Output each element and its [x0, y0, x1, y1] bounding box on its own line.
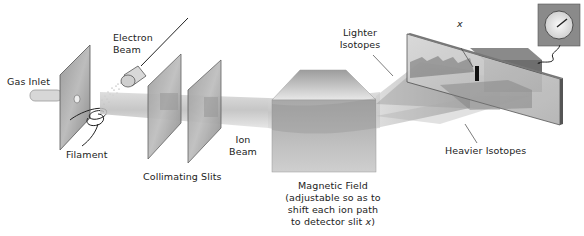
- ionization-plate: [60, 45, 90, 150]
- magnetic-field-line4-suffix: ): [371, 216, 375, 227]
- collimating-slit-1: [148, 54, 181, 159]
- label-ion-beam-line1: Ion: [229, 134, 257, 146]
- label-filament: Filament: [66, 149, 108, 161]
- detector-slit: [475, 66, 479, 81]
- label-electron-beam-line1: Electron: [113, 32, 153, 44]
- label-collimating-slits: Collimating Slits: [143, 171, 222, 183]
- label-magnetic-field-line2: (adjustable so as to: [268, 192, 398, 204]
- magnet: [272, 70, 376, 172]
- label-lighter-isotopes-line1: Lighter: [335, 27, 385, 39]
- label-detector-slit-x: x: [457, 18, 463, 30]
- label-magnetic-field-line1: Magnetic Field: [268, 180, 398, 192]
- label-magnetic-field-line3: shift each ion path: [268, 204, 398, 216]
- meter-gauge: [538, 4, 580, 63]
- label-lighter-isotopes-line2: Isotopes: [335, 39, 385, 51]
- collimating-slit-2: [188, 60, 221, 163]
- label-ion-beam-line2: Beam: [229, 146, 257, 158]
- label-heavier-isotopes: Heavier Isotopes: [445, 145, 526, 157]
- label-gas-inlet: Gas Inlet: [7, 76, 50, 88]
- label-magnetic-field-line4: to detector slit x): [268, 216, 398, 228]
- label-electron-beam-line2: Beam: [113, 44, 141, 56]
- magnetic-field-line4-text: to detector slit: [291, 216, 365, 227]
- gas-inlet-tube: [30, 90, 62, 101]
